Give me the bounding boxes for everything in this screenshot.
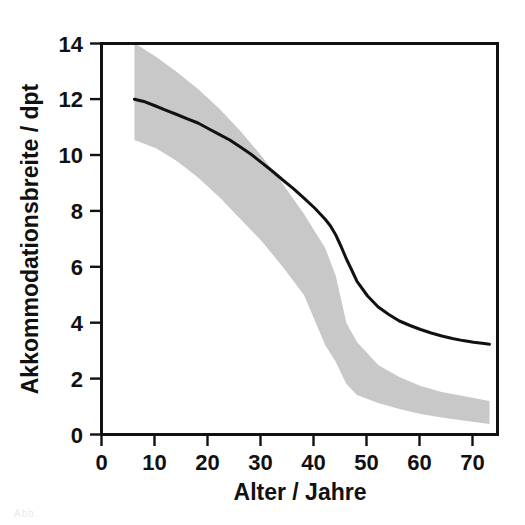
x-tick-label-40: 40 [301,450,325,475]
y-tick-label-12: 12 [59,87,83,112]
y-tick-label-10: 10 [59,143,83,168]
x-axis-title: Alter / Jahre [234,479,367,505]
x-tick-label-70: 70 [460,450,484,475]
y-tick-label-8: 8 [71,199,83,224]
x-tick-label-30: 30 [248,450,272,475]
x-tick-label-0: 0 [95,450,107,475]
y-tick-label-4: 4 [71,311,84,336]
y-tick-label-6: 6 [71,255,83,280]
y-axis-title: Akkommodationsbreite / dpt [17,83,43,394]
figure-container: 0 10 20 30 40 50 60 70 0 2 4 6 8 10 12 1… [0,0,525,525]
x-tick-label-20: 20 [195,450,219,475]
caption-fragment: Abb. [14,508,244,520]
y-tick-label-0: 0 [71,423,83,448]
x-tick-label-50: 50 [354,450,378,475]
y-tick-label-2: 2 [71,367,83,392]
x-tick-label-60: 60 [407,450,431,475]
y-tick-label-14: 14 [59,32,84,57]
x-tick-label-10: 10 [142,450,166,475]
accommodation-amplitude-chart: 0 10 20 30 40 50 60 70 0 2 4 6 8 10 12 1… [0,0,525,525]
